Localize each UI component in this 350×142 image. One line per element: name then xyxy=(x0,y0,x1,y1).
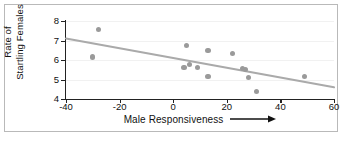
scatter-point xyxy=(205,48,210,53)
scatter-point xyxy=(205,74,210,79)
x-axis-label: Male Responsiveness xyxy=(66,114,334,126)
scatter-point xyxy=(230,51,235,56)
scatter-point xyxy=(254,89,259,94)
scatter-point xyxy=(246,75,251,80)
x-axis-label-text: Male Responsiveness xyxy=(124,114,224,125)
scatter-point xyxy=(181,65,186,70)
x-axis-arrow-icon xyxy=(230,114,276,125)
chart-figure: Rate of Startling Females 45678 -40-2002… xyxy=(0,0,350,142)
